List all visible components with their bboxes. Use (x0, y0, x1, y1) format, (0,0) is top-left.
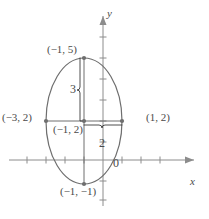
y-axis-label: y (107, 8, 112, 19)
point-label-left-vertex: (−3, 2) (2, 112, 32, 123)
brace-label-horizontal: 2 (99, 137, 105, 149)
y-axis-arrowhead (100, 16, 107, 25)
origin-label: 0 (113, 157, 119, 169)
point-label-top-vertex: (−1, 5) (47, 44, 77, 55)
marker-left-vertex (44, 119, 48, 123)
point-label-right-vertex: (1, 2) (146, 112, 170, 123)
x-axis (9, 157, 194, 164)
x-axis-label: x (190, 176, 195, 187)
point-label-center-point: (−1, 2) (53, 124, 83, 135)
ellipse-graph-figure: (−1, 5) (−3, 2) (1, 2) (−1, 2) (−1, −1) … (0, 0, 209, 219)
x-axis-arrowhead (185, 157, 194, 164)
vertical-brace (77, 58, 84, 121)
marker-top-vertex (82, 56, 86, 60)
plot-canvas (0, 0, 209, 219)
point-label-bottom-vertex: (−1, −1) (60, 186, 96, 197)
marker-right-vertex (120, 119, 124, 123)
brace-label-vertical: 3 (70, 83, 76, 95)
